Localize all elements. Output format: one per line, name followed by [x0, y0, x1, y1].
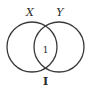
intersection-value: 1 — [43, 45, 49, 55]
venn-diagram: X Y 1 I — [0, 0, 90, 95]
set-x-circle — [7, 22, 57, 72]
set-x-label: X — [25, 6, 35, 19]
set-y-label: Y — [56, 6, 65, 19]
universe-label: I — [43, 75, 48, 88]
set-y-circle — [34, 22, 84, 72]
